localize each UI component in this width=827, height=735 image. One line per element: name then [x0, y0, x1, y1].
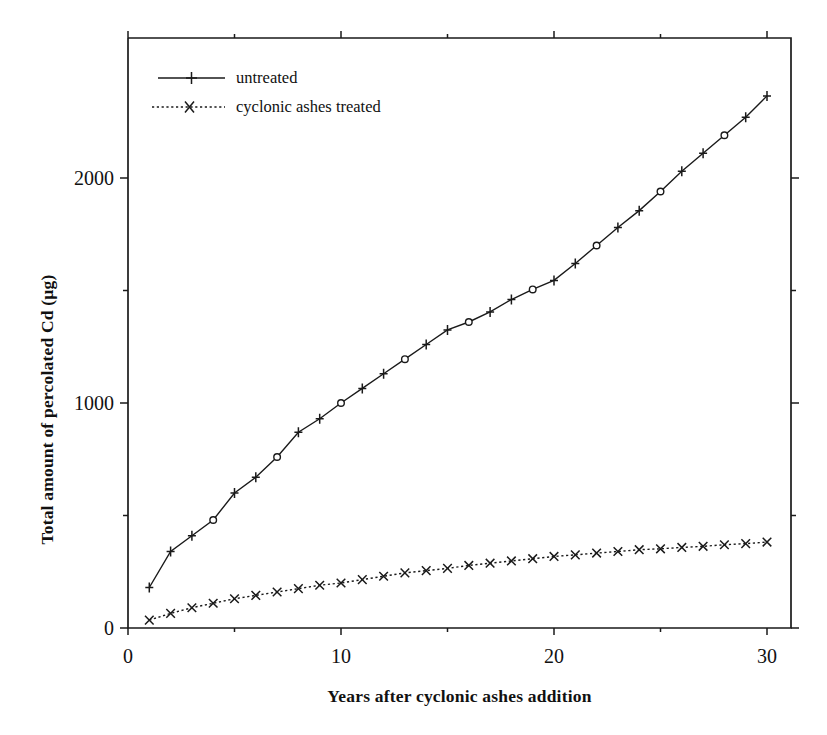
data-point-plus	[571, 259, 579, 269]
axis-frame	[128, 38, 791, 628]
data-point-circle	[593, 242, 600, 249]
series-line-untreated	[149, 96, 767, 588]
y-tick-label-2000: 2000	[58, 167, 114, 190]
data-point-plus	[507, 295, 515, 305]
data-point-cross	[678, 543, 687, 552]
data-point-plus	[444, 325, 452, 335]
legend-marker-layer	[152, 72, 225, 113]
chart-figure: Total amount of percolated Cd (µg) Years…	[0, 0, 827, 735]
plot-area	[0, 0, 827, 735]
data-point-plus	[316, 414, 324, 424]
legend-label-cyclonic-ashes-treated: cyclonic ashes treated	[236, 97, 381, 117]
y-axis-title: Total amount of percolated Cd (µg)	[37, 200, 58, 620]
x-axis-title: Years after cyclonic ashes addition	[128, 686, 791, 707]
legend-label-untreated: untreated	[236, 68, 297, 88]
data-point-cross	[635, 545, 644, 554]
data-point-cross	[315, 581, 324, 590]
legend-marker-plus	[186, 72, 197, 84]
data-point-plus	[699, 148, 707, 158]
data-point-circle	[402, 356, 409, 363]
data-point-plus	[358, 383, 366, 393]
data-point-circle	[338, 400, 345, 407]
data-point-circle	[210, 517, 217, 524]
data-point-plus	[188, 531, 196, 541]
data-point-circle	[466, 319, 473, 326]
series-line-cyclonic-ashes-treated	[149, 542, 767, 620]
data-point-cross	[273, 588, 282, 597]
x-tick-label-10: 10	[331, 645, 351, 668]
data-point-cross	[166, 609, 175, 618]
data-point-plus	[550, 275, 558, 285]
data-point-cross	[358, 575, 367, 584]
data-point-cross	[188, 603, 197, 612]
data-point-circle	[721, 132, 728, 139]
x-tick-label-30: 30	[757, 645, 777, 668]
axis-ticks	[120, 31, 799, 635]
data-point-cross	[145, 616, 154, 625]
data-point-plus	[614, 223, 622, 233]
data-point-cross	[401, 569, 410, 578]
data-point-cross	[486, 559, 495, 568]
y-tick-label-0: 0	[58, 617, 114, 640]
data-point-plus	[635, 206, 643, 216]
data-point-plus	[486, 307, 494, 317]
data-point-circle	[657, 188, 664, 195]
data-point-circle	[529, 286, 536, 293]
data-point-cross	[230, 594, 239, 603]
data-point-circle	[274, 454, 281, 461]
data-point-cross	[443, 564, 452, 573]
x-tick-label-0: 0	[123, 645, 133, 668]
data-point-plus	[422, 340, 430, 350]
x-tick-label-20: 20	[544, 645, 564, 668]
data-point-plus	[380, 369, 388, 379]
data-series-layer	[145, 91, 771, 625]
y-tick-label-1000: 1000	[58, 392, 114, 415]
